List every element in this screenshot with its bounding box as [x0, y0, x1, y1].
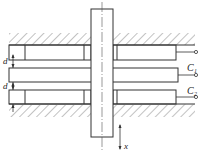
- capacitor-label-c1: C 1: [187, 62, 197, 74]
- gap-dimension-arrows: [12, 54, 15, 112]
- gap-label-top: d: [3, 56, 8, 66]
- gap-label-bottom: d: [3, 81, 8, 91]
- terminal-upper: [194, 50, 197, 53]
- capacitor-label-c2: C 2: [187, 85, 197, 97]
- displacement-arrow: [119, 124, 122, 150]
- svg-text:2: 2: [194, 91, 197, 97]
- displacement-label: x: [123, 141, 128, 151]
- svg-text:C: C: [187, 85, 194, 96]
- differential-capacitor-diagram: d d C 1 C 2 x: [0, 0, 210, 160]
- svg-text:1: 1: [194, 68, 197, 74]
- central-moving-rod: [91, 2, 113, 150]
- svg-text:C: C: [187, 62, 194, 73]
